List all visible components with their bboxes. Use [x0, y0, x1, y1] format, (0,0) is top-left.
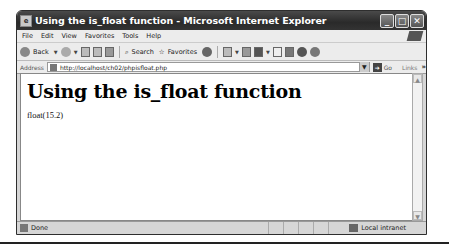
menu-tools[interactable]: Tools: [122, 32, 138, 40]
window-title: Using the is_float function - Microsoft …: [35, 15, 380, 26]
menu-edit[interactable]: Edit: [41, 32, 54, 40]
title-bar[interactable]: e Using the is_float function - Microsof…: [17, 11, 426, 30]
mail-dropdown-icon[interactable]: ▼: [235, 49, 239, 55]
menu-help[interactable]: Help: [146, 32, 161, 40]
page-heading: Using the is_float function: [27, 80, 414, 102]
status-cell: [268, 222, 283, 234]
page-divider: [0, 242, 449, 244]
page-icon: [50, 64, 57, 71]
edit-dropdown-icon[interactable]: ▼: [266, 49, 270, 55]
toolbar-separator: [119, 46, 120, 58]
home-icon[interactable]: [105, 47, 114, 57]
vertical-scrollbar[interactable]: ▲ ▼: [412, 73, 423, 221]
page-done-icon: [20, 224, 28, 232]
forward-arrow-icon[interactable]: [61, 47, 71, 57]
browser-window: e Using the is_float function - Microsof…: [16, 10, 427, 235]
windows-logo-icon: [407, 31, 424, 41]
stop-icon[interactable]: [81, 47, 90, 57]
history-icon[interactable]: [202, 47, 212, 57]
address-dropdown-button[interactable]: ▼: [359, 62, 369, 72]
edit-icon[interactable]: [254, 47, 263, 57]
go-label: Go: [384, 64, 392, 71]
standard-toolbar: Back ▼ ▼ ⌕ Search ☆ Favorites ▼ ▼: [17, 43, 426, 61]
menu-view[interactable]: View: [61, 32, 76, 40]
links-button[interactable]: Links: [402, 64, 417, 71]
status-bar: Done Local intranet: [17, 221, 426, 234]
favorites-button[interactable]: Favorites: [168, 48, 197, 56]
search-icon[interactable]: ⌕: [125, 48, 129, 56]
menu-favorites[interactable]: Favorites: [85, 32, 114, 40]
status-cell: [298, 222, 313, 234]
scroll-down-button[interactable]: ▼: [413, 211, 422, 220]
back-button[interactable]: Back: [33, 48, 49, 56]
page-content: Using the is_float function float(15.2): [20, 73, 415, 221]
search-button[interactable]: Search: [132, 48, 154, 56]
ie-app-icon: e: [20, 15, 32, 27]
discuss-icon[interactable]: [273, 47, 282, 57]
go-button[interactable]: ➔ Go: [373, 63, 392, 72]
go-arrow-icon: ➔: [373, 63, 382, 72]
close-button[interactable]: ✕: [410, 14, 424, 28]
tool-icon[interactable]: [310, 47, 320, 57]
links-chevron-icon[interactable]: »: [421, 63, 426, 71]
minimize-button[interactable]: _: [380, 14, 394, 28]
status-text: Done: [31, 224, 48, 232]
address-label: Address: [20, 64, 44, 71]
print-icon[interactable]: [242, 47, 251, 57]
back-arrow-icon[interactable]: [20, 47, 30, 57]
zone-label: Local intranet: [361, 224, 406, 232]
scroll-up-button[interactable]: ▲: [413, 74, 422, 83]
address-input[interactable]: http://localhost/ch02/phpisfloat.php ▼: [47, 62, 370, 72]
status-cell: [313, 222, 328, 234]
forward-dropdown-icon[interactable]: ▼: [74, 49, 78, 55]
status-cells: Local intranet: [268, 222, 426, 234]
refresh-icon[interactable]: [93, 47, 102, 57]
menu-bar: File Edit View Favorites Tools Help: [17, 30, 426, 43]
back-dropdown-icon[interactable]: ▼: [54, 49, 58, 55]
messenger-icon[interactable]: [297, 47, 307, 57]
window-controls: _ □ ✕: [380, 14, 424, 28]
security-zone: Local intranet: [328, 222, 426, 234]
mail-icon[interactable]: [223, 47, 232, 57]
intranet-icon: [349, 224, 358, 232]
status-cell: [283, 222, 298, 234]
menu-file[interactable]: File: [22, 32, 33, 40]
toolbar-separator: [217, 46, 218, 58]
address-url[interactable]: http://localhost/ch02/phpisfloat.php: [60, 64, 167, 71]
page-output: float(15.2): [27, 110, 414, 120]
research-icon[interactable]: [285, 47, 294, 57]
favorites-star-icon[interactable]: ☆: [159, 48, 165, 56]
maximize-button[interactable]: □: [395, 14, 409, 28]
